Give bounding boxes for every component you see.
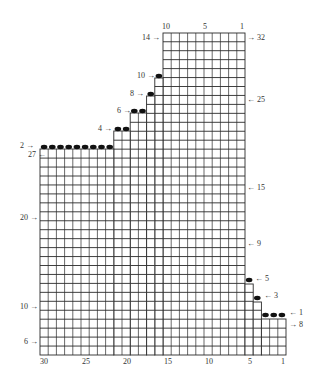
bottom-axis-label: 10	[205, 358, 213, 366]
row-label-left: 14 →	[142, 34, 160, 42]
bottom-axis-label: 25	[82, 358, 90, 366]
bind-off-dot-icon	[57, 145, 64, 149]
bind-off-dot-icon	[115, 127, 122, 131]
bind-off-dot-icon	[279, 313, 286, 317]
bind-off-dot-icon	[41, 145, 48, 149]
top-axis-label: 10	[162, 23, 170, 31]
bottom-axis-label: 20	[123, 358, 131, 366]
row-label-left: 6 →	[117, 107, 131, 115]
top-axis-label: 1	[240, 23, 244, 31]
bottom-axis-label: 5	[248, 358, 252, 366]
row-label-left: 20 →	[20, 214, 38, 222]
row-label-right: ← 3	[264, 292, 278, 300]
row-label-right: ← 1	[289, 309, 303, 317]
grid-block-top-block	[163, 33, 245, 355]
row-label-right: ← 5	[255, 275, 269, 283]
row-label-right: ← 9	[247, 240, 261, 248]
row-label-left: 10 →	[137, 72, 155, 80]
bind-off-dot-icon	[131, 109, 138, 113]
bottom-axis-label: 30	[40, 358, 48, 366]
row-label-left: 10 →	[20, 303, 38, 311]
grid-block-step-right-1	[261, 319, 286, 355]
row-label-right: → 32	[247, 34, 265, 42]
row-label-right: → 8	[289, 321, 303, 329]
bottom-axis-label: 1	[281, 358, 285, 366]
row-label-right: ← 25	[247, 96, 265, 104]
grid-block-step-4	[114, 131, 130, 355]
row-label-left: 8 →	[130, 90, 144, 98]
row-label-left: 27 ←	[28, 151, 46, 159]
bind-off-dot-icon	[147, 92, 154, 96]
row-label-left: 6 →	[24, 338, 38, 346]
row-label-right: ← 15	[247, 184, 265, 192]
bind-off-dot-icon	[270, 313, 277, 317]
grid-block-step-6	[130, 113, 146, 355]
bind-off-dot-icon	[82, 145, 89, 149]
knitting-chart-grid	[0, 0, 318, 386]
bind-off-dot-icon	[156, 74, 163, 78]
bind-off-dot-icon	[139, 109, 146, 113]
grid-block-step-10	[155, 78, 163, 355]
bind-off-dot-icon	[246, 278, 253, 282]
grid-block-step-right-3	[253, 302, 261, 355]
bind-off-dot-icon	[49, 145, 56, 149]
row-label-left: 4 →	[98, 125, 112, 133]
bind-off-dot-icon	[254, 296, 261, 300]
bind-off-dot-icon	[123, 127, 130, 131]
bind-off-dot-icon	[90, 145, 97, 149]
bind-off-dot-icon	[65, 145, 72, 149]
bind-off-dot-icon	[262, 313, 269, 317]
bind-off-dot-icon	[98, 145, 105, 149]
grid-block-step-8	[147, 96, 155, 355]
grid-block-step-right-5	[245, 284, 253, 355]
row-label-left: 2 →	[20, 142, 34, 150]
bind-off-dot-icon	[106, 145, 113, 149]
grid-block-step-2	[40, 149, 114, 355]
top-axis-label: 5	[203, 23, 207, 31]
bind-off-dot-icon	[74, 145, 81, 149]
bottom-axis-label: 15	[164, 358, 172, 366]
